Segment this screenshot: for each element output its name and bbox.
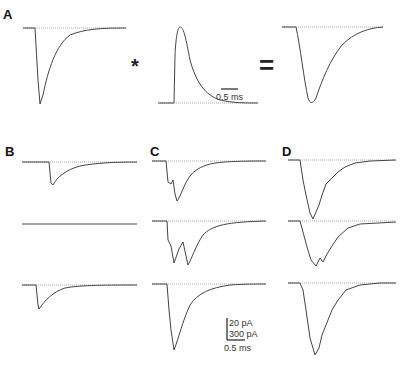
trace-b3 [22, 285, 137, 309]
panel-label-a: A [3, 7, 12, 22]
panel-label-d: D [282, 144, 291, 159]
scale-label-300pa: 300 pA [229, 329, 258, 339]
trace-c3 [152, 284, 266, 350]
trace-d2 [288, 221, 396, 266]
trace-d1 [288, 160, 396, 219]
equals-operator: = [259, 50, 274, 81]
scale-label-time: 0.5 ms [224, 343, 251, 353]
trace-a-input [23, 28, 126, 104]
kernel-scale-label: 0.5 ms [216, 92, 243, 102]
scale-label-20pa: 20 pA [229, 318, 253, 328]
trace-a-result [282, 27, 383, 103]
trace-c2 [152, 221, 266, 265]
panel-label-c: C [150, 144, 159, 159]
panel-label-b: B [5, 144, 14, 159]
trace-c1 [152, 161, 266, 201]
convolve-operator: * [131, 55, 139, 78]
trace-b1 [22, 162, 137, 185]
figure-canvas [0, 0, 409, 370]
trace-d3 [288, 283, 396, 355]
